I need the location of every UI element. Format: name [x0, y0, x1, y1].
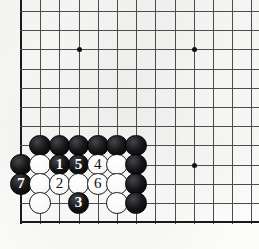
- move-number-label: 5: [75, 157, 83, 172]
- black-stone[interactable]: [49, 135, 71, 157]
- move-number-label: 3: [75, 195, 83, 210]
- move-number-label: 4: [94, 157, 102, 172]
- black-stone[interactable]: [125, 192, 147, 214]
- black-stone-move-3[interactable]: 3: [68, 192, 90, 214]
- move-number-label: 6: [94, 176, 102, 191]
- black-stone[interactable]: [125, 135, 147, 157]
- white-stone[interactable]: [29, 192, 51, 214]
- white-stone-move-2[interactable]: 2: [49, 173, 71, 195]
- move-number-label: 2: [56, 176, 64, 191]
- go-board-diagram: 1547263: [0, 0, 259, 249]
- stone-layer: 1547263: [0, 0, 259, 249]
- move-number-label: 7: [17, 176, 25, 191]
- black-stone[interactable]: [29, 135, 51, 157]
- move-number-label: 1: [56, 157, 64, 172]
